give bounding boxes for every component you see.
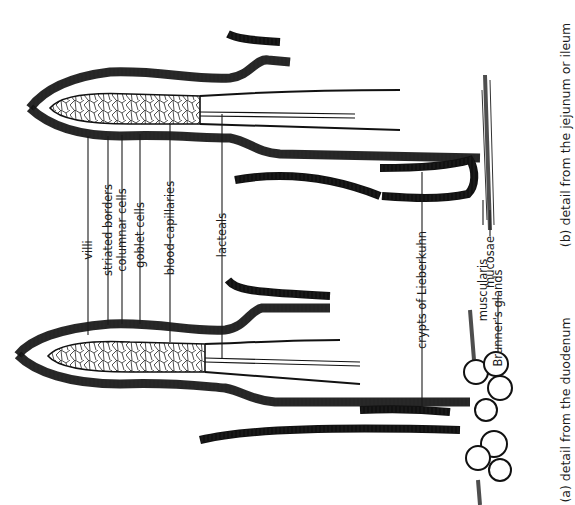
diagram-drawing: villi striated borders columnar cells go… bbox=[0, 0, 575, 505]
label-lacteals: lacteals bbox=[215, 213, 229, 257]
caption-panel-a: (a) detail from the duodenum bbox=[558, 317, 573, 502]
villus-b bbox=[30, 34, 494, 230]
brunners-glands-drawing bbox=[464, 352, 512, 481]
label-brunners-glands: Brunner's glands bbox=[491, 269, 505, 366]
labels: villi striated borders columnar cells go… bbox=[81, 181, 505, 367]
label-crypts: crypts of Lieberkuhn bbox=[415, 231, 429, 349]
villus-a bbox=[18, 280, 512, 505]
label-blood-capillaries: blood-capillaries bbox=[163, 181, 177, 275]
label-villi: villi bbox=[81, 240, 95, 260]
label-goblet-cells: goblet cells bbox=[133, 202, 147, 268]
label-striated-borders: striated borders bbox=[101, 184, 115, 276]
caption-panel-b: (b) detail from the jejunum or ileum bbox=[558, 23, 573, 247]
villi-diagram: villi striated borders columnar cells go… bbox=[0, 0, 575, 505]
label-columnar-cells: columnar cells bbox=[115, 188, 129, 272]
